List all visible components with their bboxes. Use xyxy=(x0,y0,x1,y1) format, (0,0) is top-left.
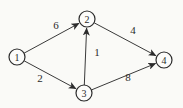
edge-weight-1-3: 2 xyxy=(37,72,43,84)
edge-3-to-4 xyxy=(91,63,155,90)
nodes-layer: 1234 xyxy=(9,11,172,101)
edges-layer xyxy=(24,23,156,90)
graph-node-1: 1 xyxy=(9,49,25,65)
directed-graph-canvas: 1234 62148 xyxy=(0,0,183,108)
node-label-1: 1 xyxy=(15,52,20,63)
edge-2-to-4 xyxy=(94,23,156,56)
graph-node-2: 2 xyxy=(79,11,95,27)
edge-3-to-2 xyxy=(84,28,86,85)
edge-weight-3-2: 1 xyxy=(94,46,100,58)
graph-figure: 1234 62148 xyxy=(0,0,183,108)
graph-node-3: 3 xyxy=(76,85,92,101)
node-label-4: 4 xyxy=(162,55,167,66)
node-label-3: 3 xyxy=(82,88,87,99)
edge-weight-3-4: 8 xyxy=(125,71,131,83)
edge-1-to-2 xyxy=(24,23,79,53)
edge-1-to-3 xyxy=(24,61,76,89)
node-label-2: 2 xyxy=(85,14,90,25)
graph-node-4: 4 xyxy=(156,52,172,68)
edge-weight-1-2: 6 xyxy=(53,19,59,31)
edge-weight-2-4: 4 xyxy=(130,24,136,36)
